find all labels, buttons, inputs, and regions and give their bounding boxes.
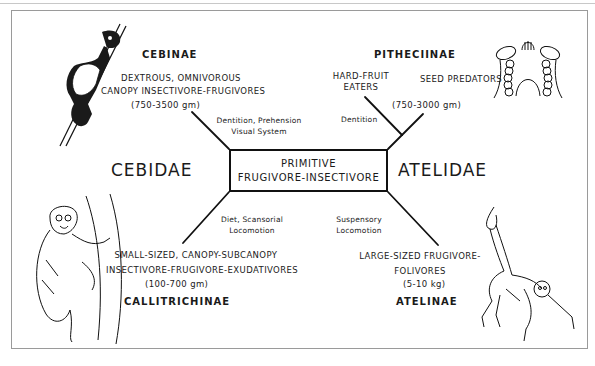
pitheciinae-hard-fruit-eaters: HARD-FRUIT EATERS: [326, 71, 396, 93]
marmoset-illustration-icon: [12, 190, 132, 345]
subfamily-callitrichinae: CALLITRICHINAE: [124, 296, 230, 307]
pitheciinae-mass: (750-3000 gm): [392, 99, 461, 112]
family-label-atelidae: ATELIDAE: [398, 160, 487, 180]
spider-monkey-illustration-icon: [460, 205, 580, 345]
edge-label-atelinae: Suspensory Locomotion: [323, 214, 395, 236]
subfamily-pitheciinae: PITHECIINAE: [374, 49, 456, 60]
cebinae-mass: (750-3500 gm): [131, 99, 200, 112]
branch-line-pitheciinae-stem: [388, 135, 402, 149]
edge-label-pitheciinae: Dentition: [341, 114, 377, 125]
callitrichinae-mass: (100-700 gm): [145, 278, 208, 291]
edge-label-cebinae: Dentition, Prehension Visual System: [211, 115, 307, 137]
subfamily-cebinae: CEBINAE: [142, 49, 197, 60]
callitrichinae-description: SMALL-SIZED, CANOPY-SUBCANOPY INSECTIVOR…: [106, 248, 286, 278]
center-box-primitive-ancestor: PRIMITIVE FRUGIVORE-INSECTIVORE: [229, 149, 388, 192]
family-label-cebidae: CEBIDAE: [111, 160, 192, 180]
atelinae-mass: (5-10 kg): [403, 278, 446, 291]
subfamily-atelinae: ATELINAE: [396, 296, 458, 307]
edge-label-callitrichinae: Diet, Scansorial Locomotion: [212, 214, 292, 236]
saki-skull-dentition-icon: [488, 38, 568, 104]
center-box-line1: PRIMITIVE: [281, 157, 336, 171]
branch-line-atelinae: [388, 192, 438, 245]
center-box-line2: FRUGIVORE-INSECTIVORE: [238, 171, 380, 185]
branch-line-seed-predators: [402, 114, 423, 135]
capuchin-illustration-icon: [40, 18, 130, 148]
